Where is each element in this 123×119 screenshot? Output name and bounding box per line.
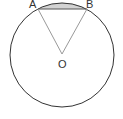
radius-oa: [38, 9, 62, 54]
label-b: B: [86, 0, 93, 10]
label-o: O: [58, 58, 67, 70]
label-a: A: [29, 0, 37, 10]
geometry-figure: A B O: [0, 0, 123, 119]
radius-ob: [62, 9, 87, 54]
circle: [10, 3, 114, 107]
diagram: A B O: [0, 0, 123, 119]
